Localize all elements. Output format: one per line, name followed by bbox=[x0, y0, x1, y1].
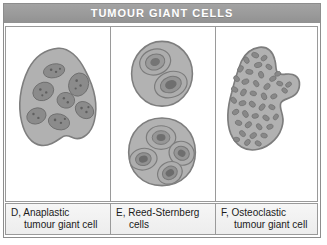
osteoclastic-giant-cell-illustration bbox=[216, 27, 317, 201]
binucleate-cell-upper bbox=[132, 41, 193, 106]
caption-e-line2: cells bbox=[116, 219, 211, 231]
figure-title-band: TUMOUR GIANT CELLS bbox=[4, 4, 320, 23]
figure-title: TUMOUR GIANT CELLS bbox=[91, 8, 234, 19]
multilobated-cell-lower bbox=[128, 118, 198, 189]
caption-d: D, Anaplastic tumour giant cell bbox=[5, 203, 111, 235]
caption-e-line1: E, Reed-Sternberg bbox=[116, 207, 211, 219]
reed-sternberg-cells-illustration bbox=[111, 27, 215, 201]
caption-e: E, Reed-Sternberg cells bbox=[110, 203, 216, 235]
anaplastic-giant-cell-illustration bbox=[6, 27, 110, 201]
panel-row bbox=[5, 26, 319, 202]
caption-f: F, Osteoclastic tumour giant cell bbox=[215, 203, 318, 235]
caption-d-line2: tumour giant cell bbox=[11, 219, 106, 231]
caption-f-line2: tumour giant cell bbox=[221, 219, 313, 231]
panel-d-anaplastic bbox=[5, 26, 111, 202]
caption-row: D, Anaplastic tumour giant cell E, Reed-… bbox=[5, 203, 319, 235]
panel-f-osteoclastic bbox=[215, 26, 318, 202]
panel-e-reed-sternberg bbox=[110, 26, 216, 202]
caption-f-line1: F, Osteoclastic bbox=[221, 207, 313, 219]
tumour-giant-cells-figure: TUMOUR GIANT CELLS bbox=[0, 0, 327, 245]
caption-d-line1: D, Anaplastic bbox=[11, 207, 106, 219]
